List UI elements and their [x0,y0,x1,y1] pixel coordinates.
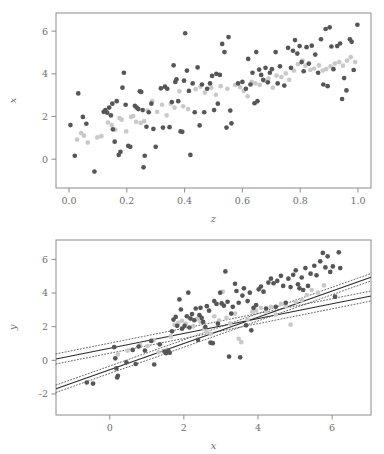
data-point [269,276,274,281]
data-point [223,269,228,274]
data-point [142,119,147,124]
data-point [282,83,287,88]
data-point [190,81,195,86]
x-axis-label: x [211,440,217,451]
data-point [205,86,210,91]
data-point [177,89,182,94]
confidence-band-steep-fit [56,274,371,386]
y-tick-label: 6 [42,254,48,265]
data-point [149,339,154,344]
data-point [299,60,304,65]
data-point [209,85,214,90]
data-point [210,341,215,346]
data-point [161,125,166,130]
data-point [76,91,81,96]
data-point [183,31,188,36]
data-point [325,254,330,259]
data-point [192,110,197,115]
data-point [325,84,330,89]
data-point [259,73,264,78]
data-point [218,73,223,78]
data-point [218,290,223,295]
data-point [291,48,296,53]
data-point [131,114,136,119]
data-point [133,362,138,367]
data-point [283,71,288,76]
data-point [304,45,309,50]
data-point [324,67,329,72]
y-tick-label: 0 [42,355,48,366]
data-point [113,356,118,361]
data-point [297,44,302,49]
data-point [130,348,135,353]
data-point [173,315,178,320]
data-point [275,279,280,284]
data-point [250,70,255,75]
data-point [177,297,182,302]
x-tick-label: 0.0 [61,195,76,206]
data-point [149,101,154,106]
data-point [245,94,250,99]
data-point [242,286,247,291]
data-point [156,350,161,355]
data-point [291,272,296,277]
data-point [341,63,346,68]
data-point [125,348,130,353]
data-point [174,77,179,82]
data-point [266,280,271,285]
data-point [208,81,213,86]
data-point [195,65,200,70]
data-point [81,115,86,120]
data-point [327,25,332,30]
data-point [153,144,158,149]
data-point [114,99,119,104]
data-point [227,354,232,359]
data-point [109,113,114,118]
data-point [179,307,184,312]
data-point [180,130,185,135]
data-point [249,328,254,333]
data-point [278,64,283,69]
data-point [301,69,306,74]
data-point [257,67,262,72]
data-point [182,78,187,83]
data-point [248,82,253,87]
data-point [338,41,343,46]
data-point [109,123,114,128]
x-tick-label: 0 [107,422,113,433]
data-point [270,85,275,90]
data-point [333,294,338,299]
data-point [199,316,204,321]
data-point [203,325,208,330]
data-point [72,153,77,158]
data-point [188,153,193,158]
data-point [112,345,117,350]
data-point [181,104,186,109]
data-point [234,289,239,294]
data-point [123,102,128,107]
data-point [351,68,356,73]
data-point [198,305,203,310]
data-point [238,355,243,360]
data-point [95,135,100,140]
data-point [136,344,141,349]
data-point [273,312,278,317]
data-point [348,55,353,60]
fit-group-steep-fit [56,274,371,393]
data-point [187,89,192,94]
data-point [91,381,96,386]
data-point [319,37,324,42]
data-point [313,52,318,57]
y-axis-label: x [7,97,18,103]
data-point [146,110,151,115]
data-point [230,304,235,309]
data-point [107,105,112,110]
data-point [236,81,241,86]
data-point [269,304,274,309]
data-point [200,82,205,87]
data-point [303,266,308,271]
data-point [254,50,259,55]
data-point [207,308,212,313]
y-tick-label: 4 [42,68,48,79]
x-tick-label: 0.8 [293,195,308,206]
